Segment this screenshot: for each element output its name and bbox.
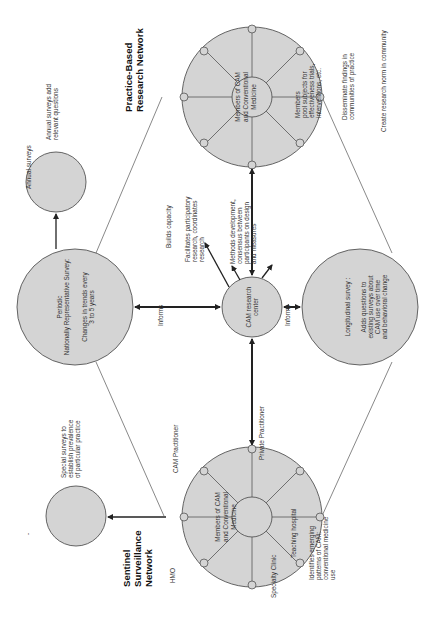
svg-text:research: research bbox=[198, 237, 205, 262]
longitudinal-survey-circle: Longitudinal survey : Adds questions to … bbox=[302, 249, 418, 365]
builds-capacity-label: Builds capacity bbox=[165, 205, 173, 248]
svg-text:Surveillance: Surveillance bbox=[132, 530, 143, 587]
private-practitioner-label: Private Practitioner bbox=[258, 405, 265, 460]
special-surveys-circle: Special surveys to establish prevalence … bbox=[46, 419, 106, 546]
svg-text:Members: Members bbox=[294, 91, 301, 118]
builds-capacity-arrow bbox=[205, 243, 229, 287]
pbrn-notes: Members pool subjects for effectiveness … bbox=[294, 30, 388, 132]
svg-text:CAM research: CAM research bbox=[245, 286, 252, 327]
cam-practitioner-label: CAM Practitioner bbox=[172, 424, 179, 473]
svg-text:conventional medicine: conventional medicine bbox=[322, 516, 329, 580]
connector-line bbox=[96, 362, 164, 516]
annual-surveys-circle: Annual surveys Annual surveys add releva… bbox=[25, 83, 86, 212]
cam-research-network-diagram: Members of CAM and Conventional Medicine… bbox=[0, 0, 421, 623]
pbrn-title-1: Practice-Based bbox=[123, 43, 134, 112]
svg-text:Members of CAM: Members of CAM bbox=[214, 492, 221, 542]
pbrn-center-label-3: Medicine bbox=[250, 84, 257, 110]
svg-text:effectiveness trials,: effectiveness trials, bbox=[308, 64, 315, 118]
periodic-survey-circle: Periodic Nationally Representative Surve… bbox=[17, 249, 133, 365]
connector-line bbox=[96, 97, 162, 253]
specialty-clinic-label: Specialty Clinic bbox=[270, 554, 278, 598]
svg-text:Medicine: Medicine bbox=[230, 504, 237, 530]
hmo-label: HMO bbox=[169, 568, 176, 583]
stray-mark: - bbox=[24, 533, 31, 535]
svg-text:and behavioral change: and behavioral change bbox=[381, 274, 389, 339]
informs-right-label: Informs bbox=[284, 305, 291, 326]
informs-left-label: Informs bbox=[157, 305, 164, 326]
facilitates-label: Facilitates participatory research, coor… bbox=[184, 196, 205, 262]
svg-text:CAM use over time: CAM use over time bbox=[374, 279, 381, 334]
svg-text:interventions, etc.: interventions, etc. bbox=[315, 68, 322, 118]
pbrn-center-label-2: and Conventional bbox=[242, 72, 249, 122]
cam-research-center-circle: CAM research center bbox=[222, 277, 282, 337]
svg-text:3 to 5 years: 3 to 5 years bbox=[88, 290, 96, 323]
connector-line bbox=[322, 362, 392, 516]
teaching-hospital-label: Teaching hospital bbox=[290, 509, 298, 558]
svg-text:Create research norm in commun: Create research norm in community bbox=[380, 30, 388, 132]
svg-text:research, coordinates: research, coordinates bbox=[191, 201, 198, 262]
svg-text:use: use bbox=[329, 569, 336, 580]
annual-note-2: relevant questions bbox=[52, 88, 60, 140]
svg-text:Periodic: Periodic bbox=[56, 295, 63, 319]
pbrn-title-2: Research Network bbox=[134, 28, 145, 112]
svg-text:Longitudinal survey :: Longitudinal survey : bbox=[344, 277, 352, 336]
svg-text:Nationally Representative Surv: Nationally Representative Survey: bbox=[63, 259, 71, 355]
svg-text:center: center bbox=[252, 297, 259, 316]
svg-text:Network: Network bbox=[143, 548, 154, 587]
sentinel-hub bbox=[232, 497, 272, 537]
svg-text:Sentinel: Sentinel bbox=[121, 550, 132, 587]
sentinel-title: Sentinel Surveillance Network bbox=[121, 530, 154, 587]
svg-text:consensus between: consensus between bbox=[236, 207, 243, 264]
methods-arrow bbox=[262, 265, 272, 278]
sentinel-network-circle: Members of CAM and Conventional Medicine bbox=[180, 445, 324, 589]
svg-text:of particular practice: of particular practice bbox=[74, 420, 82, 478]
svg-text:communities of practice: communities of practice bbox=[348, 52, 356, 120]
pbrn-center-label-1: Members of CAM bbox=[234, 72, 241, 122]
facilitates-arrow bbox=[232, 266, 240, 280]
svg-text:and measures: and measures bbox=[250, 224, 257, 265]
annual-surveys-label: Annual surveys bbox=[25, 145, 33, 189]
svg-text:and Conventional: and Conventional bbox=[222, 492, 229, 542]
